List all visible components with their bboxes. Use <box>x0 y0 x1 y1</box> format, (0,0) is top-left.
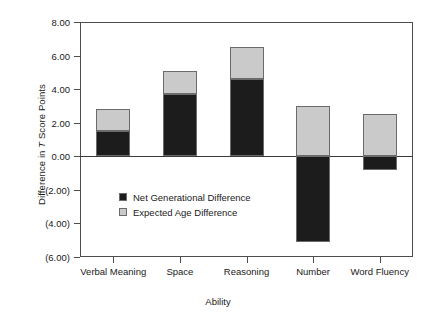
bars-layer <box>80 22 413 257</box>
bar-segment-expected-age-difference[interactable] <box>363 114 397 156</box>
y-axis-tick-label: 6.00 <box>4 50 70 61</box>
y-axis-tick-label: 2.00 <box>4 117 70 128</box>
bar-group[interactable] <box>363 22 397 257</box>
bar-group[interactable] <box>296 22 330 257</box>
y-axis-tick <box>74 257 80 258</box>
y-axis-tick-label: 0.00 <box>4 151 70 162</box>
x-axis-tick-label: Space <box>166 266 193 277</box>
bar-segment-net-generational-difference[interactable] <box>96 131 130 156</box>
x-axis-tick <box>113 257 114 263</box>
legend-swatch-icon-light <box>119 208 127 216</box>
y-axis-tick-label: (6.00) <box>4 252 70 263</box>
x-axis-tick <box>313 257 314 263</box>
legend-swatch-icon-dark <box>119 193 127 201</box>
x-axis-tick <box>380 257 381 263</box>
x-axis-tick-label: Reasoning <box>224 266 269 277</box>
bar-group[interactable] <box>230 22 264 257</box>
x-axis-tick-label: Verbal Meaning <box>80 266 146 277</box>
x-axis-tick-label: Number <box>296 266 330 277</box>
bar-segment-expected-age-difference[interactable] <box>296 106 330 156</box>
bar-chart: Difference in T Score Points 8.006.004.0… <box>0 0 436 323</box>
legend-label: Net Generational Difference <box>133 192 251 203</box>
bar-group[interactable] <box>163 22 197 257</box>
chart-legend: Net Generational Difference Expected Age… <box>119 190 251 220</box>
bar-segment-net-generational-difference[interactable] <box>163 94 197 156</box>
x-axis-tick <box>180 257 181 263</box>
bar-segment-expected-age-difference[interactable] <box>163 71 197 95</box>
bar-segment-expected-age-difference[interactable] <box>230 47 264 79</box>
y-axis-tick-label: (4.00) <box>4 218 70 229</box>
legend-label: Expected Age Difference <box>133 207 237 218</box>
y-axis-title-italic-token: T <box>36 142 47 148</box>
bar-segment-net-generational-difference[interactable] <box>363 156 397 169</box>
legend-item-net-generational-difference: Net Generational Difference <box>119 190 251 204</box>
y-axis-tick-label: 8.00 <box>4 17 70 28</box>
x-axis-tick <box>247 257 248 263</box>
bar-segment-net-generational-difference[interactable] <box>296 156 330 242</box>
bar-group[interactable] <box>96 22 130 257</box>
x-axis-title: Ability <box>0 296 436 307</box>
bar-segment-expected-age-difference[interactable] <box>96 109 130 131</box>
bar-segment-net-generational-difference[interactable] <box>230 79 264 156</box>
y-axis-tick-label: (2.00) <box>4 184 70 195</box>
legend-item-expected-age-difference: Expected Age Difference <box>119 205 251 219</box>
x-axis-tick-label: Word Fluency <box>350 266 408 277</box>
y-axis-tick-label: 4.00 <box>4 84 70 95</box>
